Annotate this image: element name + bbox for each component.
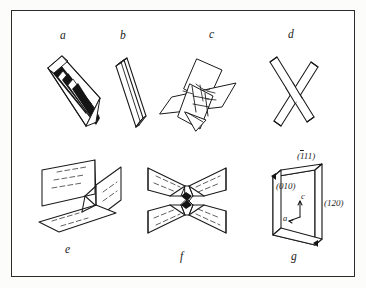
face-label-120: (120) (324, 198, 344, 208)
figure-caption-b: b (120, 29, 126, 41)
figure-caption-e: e (65, 243, 70, 255)
figure-plate: a b c d e f g (111) (010) (120) c a (0, 0, 366, 288)
figure-caption-f: f (180, 250, 183, 262)
figure-caption-a: a (60, 29, 66, 41)
figure-caption-c: c (209, 28, 214, 40)
face-label-1bar11: (111) (297, 151, 315, 161)
axis-label-a: a (283, 213, 287, 223)
figure-caption-g: g (291, 250, 297, 262)
face-label-010: (010) (276, 181, 296, 191)
figure-caption-d: d (288, 28, 294, 40)
axis-label-c: c (301, 191, 305, 201)
index-rest: 11) (304, 151, 315, 161)
plate-frame (11, 10, 355, 277)
